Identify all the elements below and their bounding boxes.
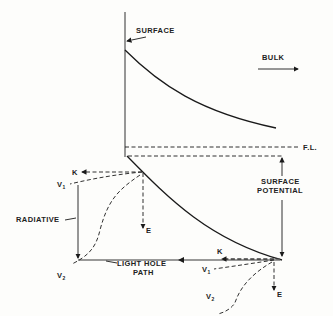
light-hole-pointer: [106, 261, 117, 263]
v2-left-curve: [72, 175, 140, 264]
conduction-band-curve: [125, 50, 276, 128]
radiative-pointer: [65, 218, 76, 220]
v2-right-label: V2: [206, 292, 215, 302]
v2-right-curve: [218, 262, 272, 314]
radiative-label: RADIATIVE: [16, 215, 59, 224]
v1-left-label: V1: [57, 180, 66, 190]
valence-band-curve: [127, 156, 282, 260]
k-left-label: K: [72, 168, 78, 177]
surface-label: SURFACE: [136, 26, 175, 35]
k-right-label: K: [217, 247, 223, 256]
bulk-label: BULK: [262, 53, 285, 62]
surface-arrow-icon: [127, 37, 146, 41]
light-hole-label-2: PATH: [133, 268, 154, 277]
v1-left-curve: [70, 172, 142, 184]
e-left-label: E: [146, 226, 151, 235]
light-hole-arrow-icon: [178, 257, 184, 263]
fermi-level-label: F.L.: [303, 143, 317, 152]
v1-right-label: V1: [202, 265, 211, 275]
surface-potential-label-1: SURFACE: [261, 177, 300, 186]
light-hole-label-1: LIGHT HOLE: [117, 259, 166, 268]
v1-right-curve: [214, 260, 274, 269]
band-bending-diagram: SURFACE BULK F.L. SURFACE POTENTIAL LIGH…: [0, 0, 333, 316]
v2-left-label: V2: [57, 271, 66, 281]
surface-potential-label-2: POTENTIAL: [257, 186, 303, 195]
e-right-label: E: [277, 290, 282, 299]
